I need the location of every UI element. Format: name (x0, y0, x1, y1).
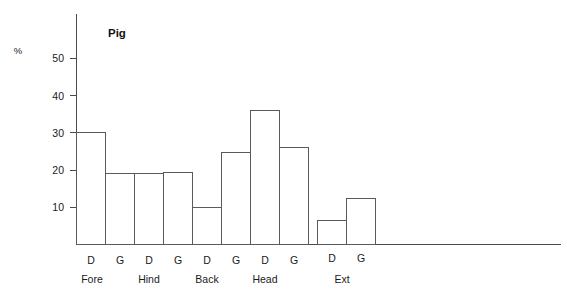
bar-back-g (222, 153, 251, 245)
y-tick-label-10: 10 (52, 201, 64, 213)
bar-fore-d (77, 133, 106, 245)
bar-ext-d (318, 220, 347, 244)
bar-hind-d (135, 174, 164, 245)
bar-fore-g (106, 174, 135, 245)
x-group-label-head: Head (252, 273, 277, 285)
y-axis-unit-label: % (14, 45, 23, 56)
x-sub-label-hind-d: D (145, 254, 153, 266)
chart-title: Pig (108, 27, 126, 39)
x-sub-labels: D G D G D G D G D G (87, 252, 365, 266)
bar-ext-g (347, 198, 376, 244)
x-sub-label-ext-g: G (357, 252, 365, 264)
bar-head-d (251, 111, 280, 245)
x-group-label-fore: Fore (81, 273, 103, 285)
x-group-labels: Fore Hind Back Head Ext (81, 273, 349, 285)
x-sub-label-ext-d: D (328, 252, 336, 264)
x-sub-label-back-d: D (203, 254, 211, 266)
y-tick-label-50: 50 (52, 52, 64, 64)
bar-head-g (280, 148, 309, 245)
x-sub-label-head-d: D (261, 254, 269, 266)
x-group-label-ext: Ext (334, 273, 349, 285)
bar-back-d (193, 207, 222, 244)
y-tick-label-20: 20 (52, 164, 64, 176)
y-tick-labels: 50 40 30 20 10 (52, 52, 64, 213)
chart-figure: 50 40 30 20 10 % Pig D G D G (0, 0, 567, 297)
x-sub-label-head-g: G (290, 254, 298, 266)
y-tick-marks (70, 59, 77, 208)
x-sub-label-fore-g: G (116, 254, 124, 266)
y-tick-label-30: 30 (52, 127, 64, 139)
bars-group (77, 111, 376, 245)
y-tick-label-40: 40 (52, 90, 64, 102)
x-sub-label-back-g: G (232, 254, 240, 266)
x-group-label-back: Back (195, 273, 219, 285)
x-sub-label-fore-d: D (87, 254, 95, 266)
bar-hind-g (164, 172, 193, 244)
x-group-label-hind: Hind (138, 273, 160, 285)
x-sub-label-hind-g: G (174, 254, 182, 266)
pig-bar-chart: 50 40 30 20 10 % Pig D G D G (0, 0, 567, 297)
